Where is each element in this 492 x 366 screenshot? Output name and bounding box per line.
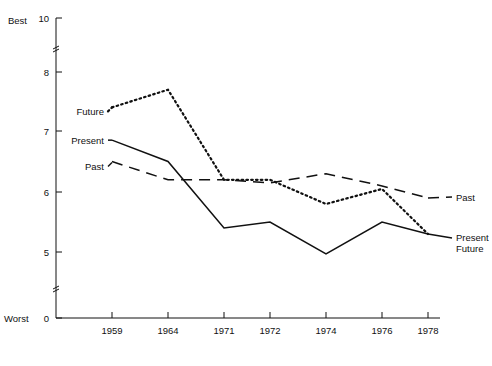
series-line-present [112,140,428,254]
x-tick-label: 1976 [371,325,392,336]
series-label-future-right: Future [456,243,483,254]
y-tick-label: 10 [38,13,49,24]
x-tick-label: 1959 [101,325,122,336]
line-chart: 0567810 1959196419711972197419761978 Fut… [0,0,492,366]
label-leader-line [108,107,112,111]
y-tick-label: 7 [44,126,49,137]
axes [53,18,440,318]
x-tick-label: 1972 [259,325,280,336]
y-axis-worst-label: Worst [4,313,29,324]
series-label-past-left: Past [85,161,104,172]
series-labels: FuturePresentPastPastPresentFuture [71,106,489,254]
series-label-present-right: Present [456,232,489,243]
data-series [112,90,428,254]
x-axis-ticks: 1959196419711972197419761978 [101,312,438,336]
series-label-present-left: Present [71,135,104,146]
label-leader-line [428,197,452,198]
y-tick-label: 6 [44,187,49,198]
chart-canvas: 0567810 1959196419711972197419761978 Fut… [0,0,492,366]
x-tick-label: 1971 [213,325,234,336]
series-line-future [112,90,428,234]
series-label-future-left: Future [77,106,104,117]
y-axis-ticks: 0567810 [38,13,62,324]
series-label-past-right: Past [456,192,475,203]
y-tick-label: 8 [44,67,49,78]
x-tick-label: 1978 [417,325,438,336]
y-axis-best-label: Best [8,15,27,26]
x-tick-label: 1974 [315,325,336,336]
y-tick-label: 5 [44,247,49,258]
x-tick-label: 1964 [157,325,178,336]
y-tick-label: 0 [44,313,49,324]
label-leader-line [108,163,112,167]
axis-lines [56,18,440,318]
label-leader-line [428,234,452,238]
